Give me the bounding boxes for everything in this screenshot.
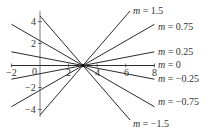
pivot-point (81, 64, 85, 68)
y-tick-2: 2 (31, 38, 36, 49)
line-family-chart: −2 0 2 4 6 8 4 2 −2 −4 m = 1.5 m = 0.75 … (0, 0, 206, 135)
x-tick-0: 0 (32, 66, 37, 77)
label-m-neg-0.25: m = −0.25 (158, 73, 199, 84)
label-m-neg-1.5: m = −1.5 (133, 118, 169, 129)
label-m-0.75: m = 0.75 (158, 21, 193, 32)
line-m-1.5 (40, 11, 130, 115)
label-m-0.25: m = 0.25 (158, 46, 193, 57)
x-tick-4: 4 (95, 67, 100, 78)
label-m-1.5: m = 1.5 (133, 5, 163, 16)
y-tick-neg4: −4 (25, 104, 36, 115)
y-tick-4: 4 (31, 16, 36, 27)
line-m-neg-1.5 (40, 16, 130, 120)
label-m-0: m = 0 (158, 59, 181, 70)
x-tick-6: 6 (124, 67, 129, 78)
legend-labels: m = 1.5 m = 0.75 m = 0.25 m = 0 m = −0.2… (133, 5, 199, 129)
x-tick-2: 2 (66, 67, 71, 78)
x-tick-neg2: −2 (6, 67, 17, 78)
label-m-neg-0.75: m = −0.75 (158, 96, 199, 107)
y-tick-neg2: −2 (25, 82, 36, 93)
x-tick-8: 8 (152, 67, 157, 78)
